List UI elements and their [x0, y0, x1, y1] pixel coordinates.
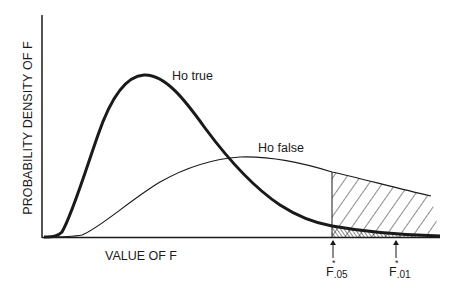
ho-true-label: Ho true — [172, 70, 213, 83]
y-axis-label: PROBABILITY DENSITY OF F — [21, 41, 35, 215]
arrow-up-icon — [330, 240, 336, 258]
f-critical-01-label: F*.01 — [389, 266, 411, 279]
f-critical-05-star: * — [332, 259, 336, 268]
ho-false-label: Ho false — [258, 142, 304, 155]
f-critical-05-label: F*.05 — [326, 266, 348, 279]
f-distribution-diagram — [0, 0, 458, 289]
f-critical-05-subscript: .05 — [334, 269, 348, 280]
x-axis-label: VALUE OF F — [105, 250, 177, 263]
f-critical-01-star: * — [395, 259, 399, 268]
f-critical-01-subscript: .01 — [397, 269, 411, 280]
arrow-up-icon — [393, 240, 399, 258]
